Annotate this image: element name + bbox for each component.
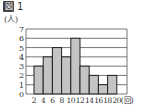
y-tick-label: 1 bbox=[19, 81, 24, 90]
y-tick-label: 6 bbox=[19, 34, 24, 43]
histogram-bar bbox=[80, 66, 89, 94]
histogram-bar bbox=[43, 57, 52, 94]
y-tick-label: 0 bbox=[19, 90, 24, 99]
x-tick-label: 12 bbox=[76, 96, 85, 105]
histogram-bar bbox=[34, 66, 43, 94]
x-axis-unit-label: (回) bbox=[121, 96, 134, 105]
x-tick-label: 8 bbox=[59, 96, 64, 105]
y-tick-label: 3 bbox=[19, 62, 24, 71]
histogram-bar bbox=[52, 48, 61, 94]
y-tick-label: 4 bbox=[19, 53, 24, 62]
y-tick-label: 7 bbox=[19, 25, 24, 34]
x-tick-label: 10 bbox=[67, 96, 76, 105]
histogram-bar bbox=[108, 75, 117, 94]
histogram-chart: 012345672468101214161820(回) bbox=[0, 0, 142, 109]
x-tick-label: 4 bbox=[41, 96, 46, 105]
x-tick-label: 16 bbox=[94, 96, 103, 105]
x-tick-label: 14 bbox=[85, 96, 94, 105]
x-tick-label: 2 bbox=[32, 96, 37, 105]
x-tick-label: 6 bbox=[50, 96, 55, 105]
histogram-bar bbox=[98, 85, 107, 94]
histogram-bar bbox=[89, 75, 98, 94]
histogram-bar bbox=[71, 38, 80, 94]
histogram-bar bbox=[62, 57, 71, 94]
y-tick-label: 5 bbox=[19, 44, 24, 53]
y-tick-label: 2 bbox=[19, 71, 24, 80]
x-tick-label: 18 bbox=[103, 96, 112, 105]
